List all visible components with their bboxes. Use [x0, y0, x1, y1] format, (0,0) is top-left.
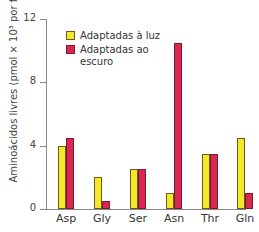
y-tick: [40, 82, 46, 83]
y-tick: [40, 19, 46, 20]
legend-item-light: Adaptadas à luz: [66, 30, 168, 42]
y-axis: [46, 19, 47, 209]
x-tick-label: Thr: [195, 212, 225, 225]
x-tick-label: Gln: [230, 212, 259, 225]
bar-gly-light: [94, 177, 102, 209]
y-tick: [40, 209, 46, 210]
bar-gln-light: [237, 138, 245, 209]
y-tick: [40, 146, 46, 147]
bar-asn-dark: [174, 43, 182, 209]
x-tick-label: Asn: [159, 212, 189, 225]
legend: Adaptadas à luz Adaptadas ao escuro: [66, 30, 168, 70]
legend-swatch-icon: [66, 45, 75, 54]
x-tick-label: Gly: [87, 212, 117, 225]
y-tick-label: 8: [22, 75, 36, 86]
bar-ser-light: [130, 169, 138, 209]
y-tick-label: 4: [22, 139, 36, 150]
y-tick-label: 0: [22, 202, 36, 213]
bar-gly-dark: [102, 201, 110, 209]
legend-item-dark: Adaptadas ao escuro: [66, 44, 168, 68]
bar-asp-dark: [66, 138, 74, 209]
y-axis-label: Aminoácidos livres (pmol × 10³ por folha…: [8, 33, 19, 183]
bar-gln-dark: [245, 193, 253, 209]
bar-asp-light: [58, 146, 66, 209]
bar-ser-dark: [138, 169, 146, 209]
legend-swatch-icon: [66, 31, 75, 40]
bar-thr-dark: [210, 154, 218, 209]
bar-thr-light: [202, 154, 210, 209]
x-axis: [46, 209, 246, 210]
x-tick-label: Asp: [51, 212, 81, 225]
y-tick-label: 12: [22, 12, 36, 23]
x-tick-label: Ser: [123, 212, 153, 225]
bar-asn-light: [166, 193, 174, 209]
